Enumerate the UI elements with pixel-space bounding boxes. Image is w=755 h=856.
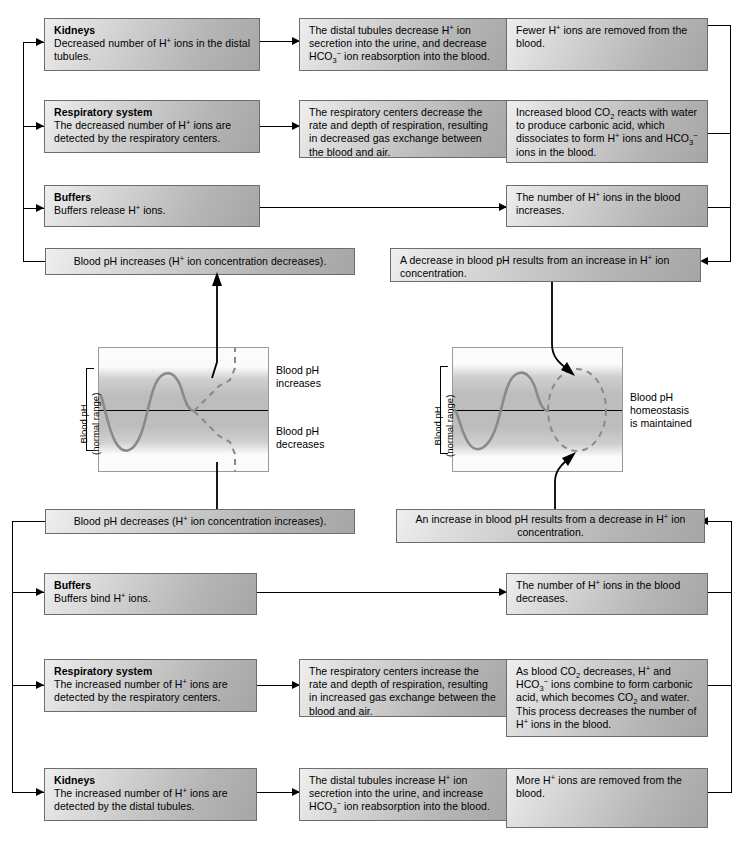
connector-kidneysresult-lower-right bbox=[707, 792, 732, 793]
box-respiratory-upper-body: The decreased number of H+ ions are dete… bbox=[54, 119, 231, 144]
connector-right-spine-to-phincrease-lower bbox=[706, 521, 732, 522]
box-respiratory-result-upper: Increased blood CO2 reacts with waterto … bbox=[506, 100, 708, 163]
connector-left-spine-upper bbox=[23, 42, 24, 262]
box-kidneys-effect-lower: The distal tubules increase H+ ionsecret… bbox=[299, 768, 508, 821]
box-kidneys-result-lower: More H+ ions are removed from the blood. bbox=[506, 768, 708, 828]
connector-right-spine-to-phdecrease bbox=[706, 261, 731, 262]
graph-left-label-decreases: Blood pHdecreases bbox=[276, 425, 324, 451]
connector-phdecreases-to-left-spine bbox=[12, 521, 45, 522]
box-kidneys-upper-body: Decreased number of H+ ions in the dista… bbox=[54, 37, 250, 62]
arrowhead-to-buffers-upper bbox=[36, 204, 44, 212]
box-ph-increase-from-decrease: An increase in blood pH results from a d… bbox=[396, 509, 705, 543]
box-ph-decrease-from-increase-text: A decrease in blood pH results from an i… bbox=[400, 254, 669, 279]
diagram-canvas: Kidneys Decreased number of H+ ions in t… bbox=[0, 0, 755, 856]
connector-left-spine-lower bbox=[12, 521, 13, 792]
box-kidneys-lower: Kidneys The increased number of H+ ions … bbox=[44, 768, 257, 821]
box-respiratory-upper-header: Respiratory system bbox=[54, 106, 251, 119]
connector-buffersresult-right bbox=[707, 207, 731, 208]
connector-kidneysresult-right bbox=[707, 25, 731, 26]
box-respiratory-effect-lower: The respiratory centers increase the rat… bbox=[299, 659, 508, 717]
box-buffers-result-upper: The number of H+ ions in the blood incre… bbox=[506, 185, 708, 227]
box-ph-decreases: Blood pH decreases (H+ ion concentration… bbox=[45, 509, 355, 534]
box-buffers-upper: Buffers Buffers release H+ ions. bbox=[44, 185, 260, 227]
box-ph-decrease-from-increase: A decrease in blood pH results from an i… bbox=[390, 248, 701, 282]
box-buffers-lower-header: Buffers bbox=[54, 579, 248, 592]
box-kidneys-result-upper-text: Fewer H+ ions are removed from the blood… bbox=[516, 24, 687, 49]
box-buffers-result-lower: The number of H+ ions in the blood decre… bbox=[506, 573, 708, 615]
graph-left-y-axis-label: Blood pH(normal range) bbox=[78, 393, 101, 455]
box-buffers-upper-header: Buffers bbox=[54, 191, 251, 204]
box-kidneys-result-upper: Fewer H+ ions are removed from the blood… bbox=[506, 18, 708, 71]
box-kidneys-lower-header: Kidneys bbox=[54, 774, 248, 787]
box-ph-increase-from-decrease-text: An increase in blood pH results from a d… bbox=[407, 513, 694, 539]
box-kidneys-effect-lower-text: The distal tubules increase H+ ionsecret… bbox=[309, 774, 490, 812]
box-ph-increases-text: Blood pH increases (H+ ion concentration… bbox=[74, 255, 327, 268]
box-respiratory-effect-lower-text: The respiratory centers increase the rat… bbox=[309, 665, 496, 717]
box-respiratory-effect-upper-text: The respiratory centers decrease the rat… bbox=[309, 106, 488, 158]
arrowhead-to-kidneys-upper bbox=[36, 38, 44, 46]
box-kidneys-effect-upper-text: The distal tubules decrease H+ ionsecret… bbox=[309, 24, 490, 62]
arrowhead-to-respiratory-upper bbox=[36, 122, 44, 130]
box-respiratory-lower: Respiratory system The increased number … bbox=[44, 659, 257, 712]
box-buffers-result-upper-text: The number of H+ ions in the blood incre… bbox=[516, 191, 680, 216]
box-respiratory-lower-header: Respiratory system bbox=[54, 665, 248, 678]
connector-buffers-to-result-lower bbox=[257, 592, 506, 593]
arrowhead-to-kidneys-lower bbox=[36, 788, 44, 796]
box-buffers-lower: Buffers Buffers bind H+ ions. bbox=[44, 573, 257, 615]
connector-buffersresult-lower-right bbox=[707, 592, 732, 593]
box-respiratory-upper: Respiratory system The decreased number … bbox=[44, 100, 260, 153]
box-kidneys-lower-body: The increased number of H+ ions are dete… bbox=[54, 787, 228, 812]
box-kidneys-effect-upper: The distal tubules decrease H+ ionsecret… bbox=[299, 18, 508, 71]
box-respiratory-result-lower: As blood CO2 decreases, H+ andHCO3− ions… bbox=[506, 659, 708, 737]
arrow-left-graph-up bbox=[180, 270, 240, 380]
box-ph-decreases-text: Blood pH decreases (H+ ion concentration… bbox=[74, 515, 327, 528]
graph-right-y-axis-label: Blood pH(normal range) bbox=[432, 395, 455, 457]
connector-right-spine-upper bbox=[730, 25, 731, 262]
connector-respiratoryresult-right bbox=[707, 133, 731, 134]
arrow-right-graph-down-in bbox=[510, 282, 590, 392]
graph-right-label-homeostasis: Blood pHhomeostasisis maintained bbox=[630, 391, 692, 430]
box-kidneys-upper-header: Kidneys bbox=[54, 24, 251, 37]
graph-left-label-increases: Blood pHincreases bbox=[276, 364, 321, 390]
box-respiratory-result-lower-text: As blood CO2 decreases, H+ andHCO3− ions… bbox=[516, 665, 696, 730]
connector-respiratoryresult-lower-right bbox=[707, 685, 732, 686]
arrowhead-to-respiratory-lower bbox=[36, 681, 44, 689]
box-kidneys-upper: Kidneys Decreased number of H+ ions in t… bbox=[44, 18, 260, 71]
arrowhead-to-phdecrease-box bbox=[700, 257, 708, 265]
box-respiratory-lower-body: The increased number of H+ ions are dete… bbox=[54, 678, 228, 703]
box-kidneys-result-lower-text: More H+ ions are removed from the blood. bbox=[516, 774, 682, 799]
connector-right-spine-lower bbox=[731, 521, 732, 793]
box-respiratory-result-upper-text: Increased blood CO2 reacts with waterto … bbox=[516, 106, 698, 158]
box-buffers-lower-body: Buffers bind H+ ions. bbox=[54, 592, 151, 604]
box-buffers-upper-body: Buffers release H+ ions. bbox=[54, 204, 166, 216]
box-buffers-result-lower-text: The number of H+ ions in the blood decre… bbox=[516, 579, 680, 604]
connector-buffers-to-result bbox=[260, 207, 506, 208]
connector-phincrease-to-left-spine bbox=[23, 261, 45, 262]
box-respiratory-effect-upper: The respiratory centers decrease the rat… bbox=[299, 100, 508, 158]
arrowhead-to-buffers-lower bbox=[36, 588, 44, 596]
